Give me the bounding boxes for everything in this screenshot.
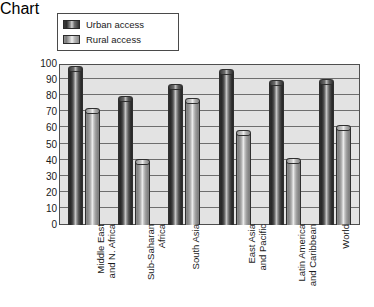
y-tick-label: 60	[23, 123, 57, 133]
bar-chart: Urban access Rural access Percent of pop…	[0, 0, 374, 307]
bar-body	[319, 82, 334, 225]
bar-urban	[168, 84, 183, 225]
chart-legend: Urban access Rural access	[57, 13, 179, 51]
x-tick-label: Sub-Saharan Africa	[145, 224, 167, 304]
bar-body	[336, 128, 351, 225]
bars-layer	[59, 64, 360, 225]
bar-body	[135, 162, 150, 225]
bar-body	[269, 83, 284, 225]
bar-body	[219, 72, 234, 225]
bar-body	[118, 99, 133, 225]
bar-cap	[118, 96, 133, 102]
bar-rural	[236, 130, 251, 225]
legend-label-rural: Rural access	[86, 34, 141, 45]
bar-body	[168, 87, 183, 225]
bar-cap	[185, 98, 200, 104]
y-tick-label: 10	[23, 204, 57, 214]
y-tick-label: 40	[23, 156, 57, 166]
bar-body	[85, 111, 100, 225]
bar-cap	[168, 84, 183, 90]
y-tick-label: 20	[23, 188, 57, 198]
y-tick-label: 0	[23, 220, 57, 230]
bar-urban	[118, 96, 133, 225]
bar-cap	[236, 130, 251, 136]
bar-urban	[319, 79, 334, 225]
bar-body	[185, 101, 200, 225]
bar-body	[68, 69, 83, 225]
bar-rural	[286, 158, 301, 225]
bar-urban	[68, 66, 83, 225]
bar-body	[236, 133, 251, 225]
y-tick-label: 70	[23, 107, 57, 117]
bar-body	[286, 161, 301, 225]
y-tick-label: 80	[23, 91, 57, 101]
bar-cap	[68, 66, 83, 72]
y-tick-label: 100	[23, 59, 57, 69]
y-tick-label: 30	[23, 172, 57, 182]
bar-cap	[135, 159, 150, 165]
x-tick-label: Latin America and Caribbean	[296, 224, 318, 304]
x-tick-label: Middle East and N. Africa	[95, 224, 117, 304]
bar-cap	[219, 69, 234, 75]
bar-rural	[135, 159, 150, 225]
urban-swatch-icon	[63, 20, 80, 29]
bar-cap	[269, 80, 284, 86]
bar-urban	[269, 80, 284, 225]
legend-item-urban: Urban access	[63, 17, 178, 32]
bar-cap	[286, 158, 301, 164]
y-axis-ticks: 1009080706050403020100	[19, 64, 57, 225]
bar-urban	[219, 69, 234, 225]
bar-cap	[319, 79, 334, 85]
legend-label-urban: Urban access	[86, 19, 144, 30]
x-tick-label: South Asia	[190, 224, 201, 304]
legend-item-rural: Rural access	[63, 32, 178, 47]
x-tick-label: East Asia and Pacific	[246, 224, 268, 304]
bar-cap	[85, 108, 100, 114]
y-tick-label: 90	[23, 75, 57, 85]
bar-rural	[185, 98, 200, 225]
bar-rural	[85, 108, 100, 225]
rural-swatch-icon	[63, 35, 80, 44]
bar-rural	[336, 125, 351, 225]
bar-cap	[336, 125, 351, 131]
x-tick-label: World	[340, 224, 351, 304]
y-tick-label: 50	[23, 140, 57, 150]
x-axis-labels: Middle East and N. AfricaSub-Saharan Afr…	[59, 226, 360, 306]
